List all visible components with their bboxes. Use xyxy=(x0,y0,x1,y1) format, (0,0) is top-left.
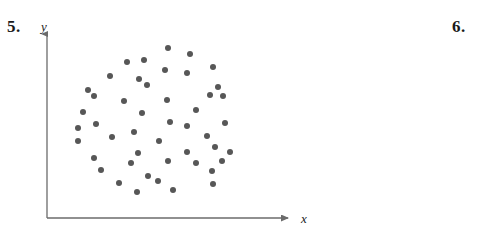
scatter-point xyxy=(165,158,171,164)
scatter-point xyxy=(131,129,137,135)
scatter-point xyxy=(134,189,140,195)
scatter-point xyxy=(144,82,150,88)
scatter-point xyxy=(167,119,173,125)
scatter-point xyxy=(98,167,104,173)
scatter-point xyxy=(141,57,147,63)
scatter-point xyxy=(215,84,221,90)
scatter-point xyxy=(75,125,81,131)
scatter-point xyxy=(107,73,113,79)
scatter-point xyxy=(136,76,142,82)
scatter-point xyxy=(75,138,81,144)
scatter-point xyxy=(145,173,151,179)
scatter-point xyxy=(227,149,233,155)
scatter-point xyxy=(91,155,97,161)
scatter-point-group xyxy=(75,45,233,195)
scatter-point xyxy=(193,107,199,113)
scatter-point xyxy=(220,93,226,99)
scatter-point xyxy=(209,168,215,174)
scatter-point xyxy=(165,45,171,51)
exercise-figure-page: 5. 6. y x xyxy=(0,0,482,232)
scatter-point xyxy=(219,158,225,164)
scatter-point xyxy=(135,150,141,156)
scatter-point xyxy=(139,110,145,116)
scatter-point xyxy=(162,67,168,73)
scatter-point xyxy=(184,123,190,129)
scatter-point xyxy=(116,180,122,186)
scatter-point xyxy=(187,51,193,57)
scatter-point xyxy=(170,187,176,193)
scatter-point xyxy=(80,109,86,115)
scatter-point xyxy=(204,133,210,139)
scatter-point xyxy=(184,149,190,155)
scatter-point xyxy=(128,160,134,166)
scatter-point xyxy=(210,181,216,187)
scatter-point xyxy=(210,64,216,70)
scatter-point xyxy=(93,121,99,127)
scatter-point xyxy=(109,134,115,140)
scatter-point xyxy=(222,120,228,126)
scatter-point xyxy=(212,144,218,150)
scatter-plot xyxy=(0,0,482,232)
scatter-point xyxy=(91,93,97,99)
scatter-point xyxy=(193,160,199,166)
scatter-point xyxy=(156,138,162,144)
scatter-point xyxy=(184,70,190,76)
scatter-point xyxy=(155,178,161,184)
scatter-point xyxy=(207,92,213,98)
scatter-point xyxy=(121,98,127,104)
scatter-point xyxy=(124,59,130,65)
axis-lines xyxy=(47,34,288,218)
scatter-point xyxy=(164,97,170,103)
scatter-point xyxy=(85,87,91,93)
